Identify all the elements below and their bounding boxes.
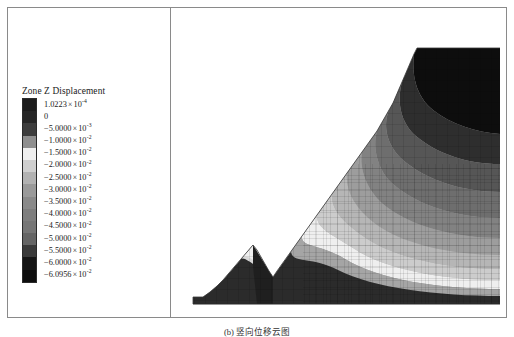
legend-label: −5.5000×10-2 <box>44 245 162 257</box>
legend-value-mantissa: −5.0000 <box>44 124 72 133</box>
legend-color-strip <box>22 98 37 283</box>
legend-value-exponent: -2 <box>86 244 91 250</box>
legend-value-mantissa: −5.5000 <box>44 246 72 255</box>
legend-value-mantissa: −4.0000 <box>44 209 72 218</box>
legend-value-mantissa: −2.0000 <box>44 160 72 169</box>
legend-label: −2.5000×10-2 <box>44 172 162 184</box>
legend-swatch <box>23 111 36 123</box>
legend-title: Zone Z Displacement <box>22 86 162 97</box>
legend-label: −5.0000×10-3 <box>44 123 162 135</box>
legend-value-mantissa: 1.0223 <box>44 100 67 109</box>
legend-value-mantissa: 0 <box>44 112 48 121</box>
legend-value-exponent: -2 <box>86 195 91 201</box>
legend-value-exponent: -2 <box>86 171 91 177</box>
multiplication-sign: × <box>67 100 74 109</box>
legend-label: 0 <box>44 111 162 123</box>
legend-value-exponent: -2 <box>86 220 91 226</box>
legend-value-mantissa: −2.5000 <box>44 173 72 182</box>
legend-value-exponent: -2 <box>86 232 91 238</box>
legend-value-mantissa: −1.0000 <box>44 136 72 145</box>
legend-value-exponent: -2 <box>86 146 91 152</box>
legend-label: −6.0000×10-2 <box>44 257 162 269</box>
legend-swatch <box>23 209 36 221</box>
legend-value-exponent: -2 <box>86 183 91 189</box>
legend-value-mantissa: −3.5000 <box>44 197 72 206</box>
legend-label: 1.0223×10-4 <box>44 99 162 111</box>
legend-label: −5.0000×10-2 <box>44 233 162 245</box>
legend-value-exponent: -2 <box>86 134 91 140</box>
legend-body: 1.0223×10-40−5.0000×10-3−1.0000×10-2−1.5… <box>22 98 162 283</box>
legend-value-mantissa: −4.5000 <box>44 221 72 230</box>
legend-label: −2.0000×10-2 <box>44 159 162 171</box>
legend-label-list: 1.0223×10-40−5.0000×10-3−1.0000×10-2−1.5… <box>44 98 162 281</box>
legend-label: −4.0000×10-2 <box>44 208 162 220</box>
legend-swatch <box>23 197 36 209</box>
legend-swatch <box>23 172 36 184</box>
figure-caption: (b) 竖向位移云图 <box>0 325 514 337</box>
legend-value-exponent: -2 <box>86 256 91 262</box>
legend-label: −6.0956×10-2 <box>44 269 162 281</box>
legend-value-exponent: -4 <box>82 98 87 104</box>
legend-value-mantissa: −6.0956 <box>44 270 72 279</box>
contour-plot-svg <box>183 14 500 311</box>
legend-swatch <box>23 148 36 160</box>
legend-value-base: 10 <box>74 100 82 109</box>
legend-value-exponent: -2 <box>86 207 91 213</box>
legend-label: −4.5000×10-2 <box>44 220 162 232</box>
legend-label: −3.0000×10-2 <box>44 184 162 196</box>
legend-value-mantissa: −1.5000 <box>44 148 72 157</box>
legend-swatch <box>23 99 36 111</box>
contour-plot <box>183 14 500 311</box>
legend-value-exponent: -3 <box>86 122 91 128</box>
legend-swatch <box>23 123 36 135</box>
legend-swatch <box>23 184 36 196</box>
legend-value-mantissa: −6.0000 <box>44 258 72 267</box>
legend-value-exponent: -2 <box>86 159 91 165</box>
legend-swatch <box>23 245 36 257</box>
legend-value-exponent: -2 <box>86 268 91 274</box>
legend-swatch <box>23 221 36 233</box>
legend-label: −1.0000×10-2 <box>44 135 162 147</box>
legend-swatch <box>23 233 36 245</box>
legend-swatch <box>23 257 36 269</box>
legend-swatch <box>23 160 36 172</box>
legend-panel: Zone Z Displacement 1.0223×10-40−5.0000×… <box>22 86 162 283</box>
legend-label: −1.5000×10-2 <box>44 147 162 159</box>
legend-label: −3.5000×10-2 <box>44 196 162 208</box>
legend-swatch <box>23 136 36 148</box>
panel-divider <box>170 7 171 318</box>
legend-swatch <box>23 270 36 282</box>
legend-value-mantissa: −5.0000 <box>44 234 72 243</box>
legend-value-mantissa: −3.0000 <box>44 185 72 194</box>
